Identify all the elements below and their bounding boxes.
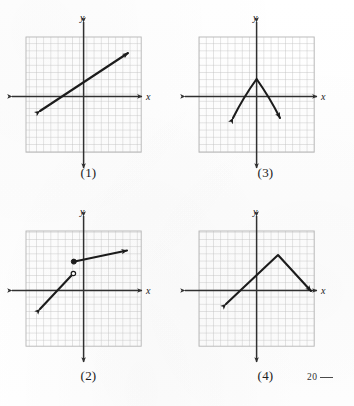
answer-choice-1[interactable]: y x (1) — [0, 0, 177, 203]
x-axis-label: x — [145, 91, 151, 102]
x-axis-label: x — [145, 285, 151, 296]
choice-1-label: (1) — [0, 165, 177, 181]
y-axis-label: y — [252, 12, 258, 23]
choice-2-label: (2) — [0, 368, 177, 384]
open-circle-endpoint — [71, 271, 75, 275]
y-axis-label: y — [79, 206, 85, 217]
choice-3-label: (3) — [177, 165, 354, 181]
y-axis-label: y — [79, 12, 85, 23]
page-number-rule — [320, 377, 333, 378]
x-axis-label: x — [320, 285, 326, 296]
page-number-value: 20 — [307, 372, 318, 382]
y-axis-label: y — [252, 206, 258, 217]
closed-dot-endpoint — [71, 259, 76, 264]
answer-choice-2[interactable]: y x (2) — [0, 203, 177, 406]
x-axis-label: x — [320, 91, 326, 102]
answer-choice-3[interactable]: y x (3) — [177, 0, 354, 203]
page-number: 20 — [307, 372, 333, 382]
